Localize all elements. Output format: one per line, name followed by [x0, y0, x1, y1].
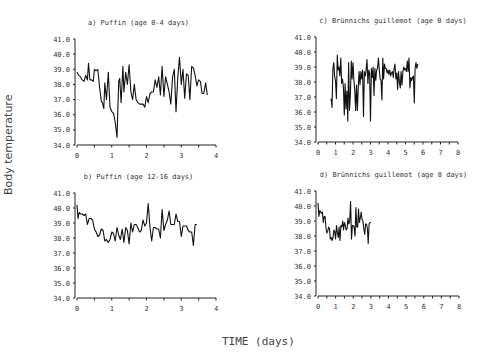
- y-tick-label: 36.0: [53, 265, 70, 273]
- y-tick-label: 34.0: [294, 139, 311, 147]
- y-tick-label: 36.0: [294, 263, 311, 271]
- y-tick-label: 39.0: [53, 66, 70, 74]
- x-tick-label: 7: [439, 303, 443, 311]
- x-tick-label: 3: [369, 303, 373, 311]
- x-tick-label: 7: [438, 149, 442, 157]
- y-tick-label: 41.0: [53, 190, 70, 198]
- x-tick-label: 4: [214, 152, 218, 160]
- y-tick-label: 40.0: [294, 203, 311, 211]
- x-tick-label: 3: [368, 149, 372, 157]
- y-tick-label: 37.0: [294, 248, 311, 256]
- figure: a) Puffin (age 0-4 days)34.035.036.037.0…: [0, 0, 489, 362]
- x-tick-label: 6: [422, 303, 426, 311]
- y-tick-label: 34.0: [53, 295, 70, 303]
- x-tick-label: 3: [179, 305, 183, 313]
- x-tick-label: 6: [421, 149, 425, 157]
- panel-b-puffin-12-16-days: b) Puffin (age 12-16 days)34.035.036.037…: [53, 173, 218, 313]
- x-tick-label: 2: [144, 305, 148, 313]
- panel-a-puffin-0-4-days: a) Puffin (age 0-4 days)34.035.036.037.0…: [53, 19, 218, 160]
- y-tick-label: 37.0: [53, 96, 70, 104]
- y-tick-label: 37.0: [294, 94, 311, 102]
- x-axis-label: TIME (days): [222, 335, 295, 348]
- y-tick-label: 36.0: [53, 111, 70, 119]
- y-tick-label: 38.0: [53, 235, 70, 243]
- y-tick-label: 41.0: [294, 34, 311, 42]
- temperature-trace: [77, 204, 197, 246]
- y-tick-label: 35.0: [53, 126, 70, 134]
- x-tick-label: 0: [316, 149, 320, 157]
- y-tick-label: 41.0: [53, 36, 70, 44]
- x-tick-label: 0: [75, 305, 79, 313]
- x-tick-label: 2: [144, 152, 148, 160]
- y-tick-label: 39.0: [294, 64, 311, 72]
- y-tick-label: 37.0: [53, 250, 70, 258]
- panel-c-brunnichs-guillemot-age-0: c) Brünnichs guillemot (age 0 days)34.03…: [294, 17, 467, 157]
- y-tick-label: 34.0: [53, 142, 70, 150]
- y-tick-label: 35.0: [294, 124, 311, 132]
- y-tick-label: 34.0: [294, 293, 311, 301]
- x-tick-label: 1: [110, 305, 114, 313]
- x-tick-label: 4: [386, 303, 390, 311]
- y-tick-label: 40.0: [294, 49, 311, 57]
- panel-title: c) Brünnichs guillemot (age 0 days): [319, 17, 467, 25]
- x-tick-label: 0: [75, 152, 79, 160]
- x-tick-label: 1: [333, 149, 337, 157]
- x-tick-label: 8: [457, 303, 461, 311]
- temperature-trace: [318, 202, 371, 244]
- x-tick-label: 0: [316, 303, 320, 311]
- y-tick-label: 39.0: [53, 220, 70, 228]
- panel-title: b) Puffin (age 12-16 days): [84, 173, 194, 181]
- y-tick-label: 35.0: [294, 278, 311, 286]
- y-axis-label: Body temperature: [2, 65, 15, 195]
- x-tick-label: 3: [179, 152, 183, 160]
- x-tick-label: 4: [214, 305, 218, 313]
- y-tick-label: 40.0: [53, 51, 70, 59]
- y-tick-label: 41.0: [294, 188, 311, 196]
- y-tick-label: 38.0: [294, 233, 311, 241]
- x-tick-label: 1: [110, 152, 114, 160]
- x-tick-label: 2: [351, 303, 355, 311]
- x-tick-label: 2: [351, 149, 355, 157]
- temperature-trace: [77, 57, 207, 137]
- panel-title: d) Brünnichs guillemot (age 8 days): [320, 171, 468, 179]
- x-tick-label: 4: [386, 149, 390, 157]
- y-tick-label: 39.0: [294, 218, 311, 226]
- x-tick-label: 1: [334, 303, 338, 311]
- panel-d-brunnichs-guillemot-age-8: d) Brünnichs guillemot (age 8 days)34.03…: [294, 171, 467, 311]
- x-tick-label: 8: [456, 149, 460, 157]
- y-tick-label: 38.0: [53, 81, 70, 89]
- y-tick-label: 36.0: [294, 109, 311, 117]
- y-tick-label: 40.0: [53, 205, 70, 213]
- y-tick-label: 35.0: [53, 280, 70, 288]
- y-tick-label: 38.0: [294, 79, 311, 87]
- x-tick-label: 5: [404, 303, 408, 311]
- temperature-trace: [331, 55, 418, 121]
- x-tick-label: 5: [403, 149, 407, 157]
- panel-title: a) Puffin (age 0-4 days): [88, 19, 189, 27]
